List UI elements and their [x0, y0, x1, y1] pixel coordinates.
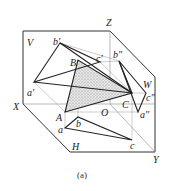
label-B: B	[70, 57, 76, 68]
axis-label-z: Z	[106, 17, 112, 28]
projection-diagram: Z V b' B c' b" W c" a' X C O a" A b a H …	[0, 0, 172, 191]
figure-caption: (a)	[77, 170, 87, 180]
label-c: c	[130, 140, 135, 151]
label-c-prime: c'	[96, 53, 103, 64]
axis-label-x: X	[12, 101, 20, 112]
label-c-double-prime: c"	[146, 92, 155, 103]
diagram-canvas: Z V b' B c' b" W c" a' X C O a" A b a H …	[0, 0, 172, 191]
plane-label-h: H	[71, 141, 80, 152]
axis-label-y: Y	[153, 154, 160, 165]
plane-label-w: W	[143, 79, 153, 90]
label-b: b	[76, 118, 81, 129]
label-b-prime: b'	[53, 36, 61, 47]
label-a: a	[58, 124, 63, 135]
label-a-prime: a'	[27, 87, 35, 98]
label-a-double-prime: a"	[140, 109, 150, 120]
label-A: A	[55, 112, 63, 123]
label-C: C	[122, 99, 129, 110]
label-b-double-prime: b"	[113, 49, 123, 60]
plane-label-v: V	[27, 37, 35, 48]
axis-label-o: O	[101, 107, 108, 118]
